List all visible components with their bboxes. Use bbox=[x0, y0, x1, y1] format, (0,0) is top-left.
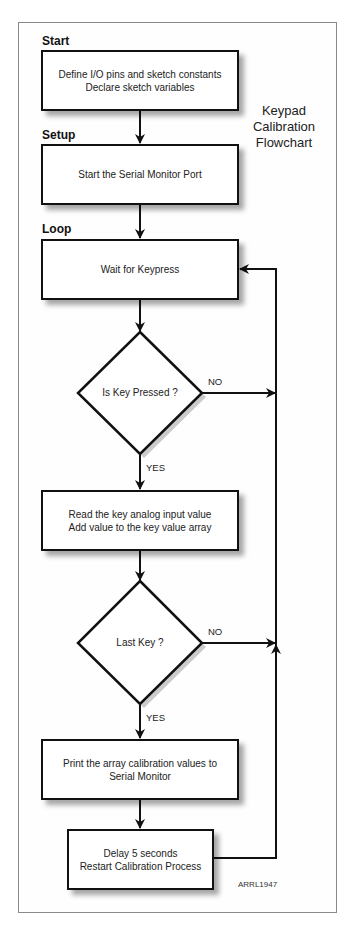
decision-key-pressed-text: Is Key Pressed ? bbox=[90, 387, 190, 398]
process-wait: Wait for Keypress bbox=[41, 239, 239, 300]
diagram-title: Keypad Calibration Flowchart bbox=[236, 103, 332, 151]
decision-last-key-text: Last Key ? bbox=[100, 637, 180, 648]
section-start-label: Start bbox=[42, 34, 69, 48]
process-init: Define I/O pins and sketch constants Dec… bbox=[41, 50, 239, 111]
section-loop-label: Loop bbox=[42, 222, 71, 236]
process-print: Print the array calibration values to Se… bbox=[41, 739, 239, 800]
edge-label-no-2: NO bbox=[208, 626, 222, 637]
edge-label-no-1: NO bbox=[208, 376, 222, 387]
edge-label-yes-2: YES bbox=[146, 712, 165, 723]
process-delay: Delay 5 seconds Restart Calibration Proc… bbox=[67, 829, 214, 890]
process-read: Read the key analog input value Add valu… bbox=[41, 490, 239, 551]
process-serial: Start the Serial Monitor Port bbox=[41, 144, 239, 205]
section-setup-label: Setup bbox=[42, 128, 75, 142]
figure-credit: ARRL1947 bbox=[238, 880, 277, 889]
edge-label-yes-1: YES bbox=[146, 462, 165, 473]
